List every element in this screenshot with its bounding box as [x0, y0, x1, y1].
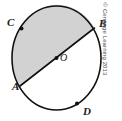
point-marker-o: [55, 56, 59, 60]
point-marker-d: [75, 102, 79, 106]
point-label-c: C: [7, 17, 14, 28]
point-label-o: O: [60, 53, 67, 63]
copyright-credit: © Cengage Learning 2013: [102, 0, 108, 80]
point-label-d: D: [83, 106, 91, 117]
point-marker-c: [20, 27, 24, 31]
geometry-figure: C B A D O © Cengage Learning 2013: [0, 0, 122, 121]
point-label-a: A: [12, 81, 19, 92]
